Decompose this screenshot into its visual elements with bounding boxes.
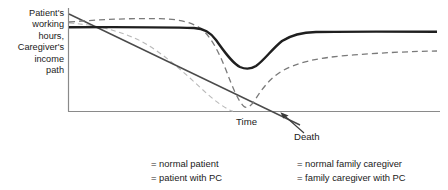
- dashed-line-icon: [112, 158, 146, 168]
- series-family-caregiver-with-pc: [69, 27, 437, 68]
- solid-line-icon: [112, 172, 146, 182]
- legend-item-normal-patient: = normal patient: [112, 157, 219, 169]
- axes: [68, 8, 440, 112]
- y-axis-title: Patient's working hours, Caregiver's inc…: [4, 8, 64, 76]
- dashed-line-icon: [258, 158, 292, 168]
- legend-item-patient-with-pc: = patient with PC: [112, 171, 222, 183]
- death-annotation-label: Death: [294, 131, 320, 142]
- legend-item-normal-family-caregiver: = normal family caregiver: [258, 157, 402, 169]
- solid-line-icon: [258, 172, 292, 182]
- figure-container: Patient's working hours, Caregiver's inc…: [0, 0, 448, 190]
- series-patient-with-pc: [69, 14, 300, 125]
- x-axis-title: Time: [236, 116, 257, 127]
- death-annotation-arrow: [280, 112, 304, 133]
- legend-item-family-caregiver-with-pc: = family caregiver with PC: [258, 171, 406, 183]
- legend: = normal patient = patient with PC = nor…: [0, 155, 448, 190]
